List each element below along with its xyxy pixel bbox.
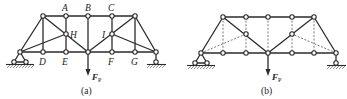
- joint-top-right: [133, 14, 137, 18]
- joint-center-bottom: [86, 50, 90, 54]
- label-f: F: [107, 57, 114, 67]
- load-label-b: F: [271, 72, 278, 82]
- load-subscript-a: P: [98, 77, 102, 83]
- joints-b: [199, 15, 338, 55]
- load-arrow-a: [86, 52, 91, 76]
- label-g: G: [131, 57, 138, 67]
- label-h: H: [69, 30, 78, 40]
- label-c: C: [108, 3, 115, 13]
- label-d: D: [38, 57, 46, 67]
- joint-f: [110, 50, 114, 54]
- label-e: E: [61, 57, 68, 67]
- left-end-diagonal-b: [201, 17, 223, 53]
- joint-left-support: [18, 50, 22, 54]
- load-arrow-b: [266, 53, 271, 76]
- label-b: B: [85, 3, 91, 13]
- right-end-diagonal-b: [314, 17, 336, 53]
- right-end-diagonal: [135, 16, 156, 52]
- load-label-a: F: [91, 72, 98, 82]
- label-a: A: [61, 3, 68, 13]
- joint-g: [133, 50, 137, 54]
- dashed-members-b: [201, 17, 336, 53]
- joint-d: [41, 50, 45, 54]
- truss-a: A B C H I D E F G F P (a): [6, 3, 166, 97]
- joint-e: [64, 50, 68, 54]
- caption-a: (a): [81, 86, 92, 97]
- joint-i: [110, 32, 114, 36]
- joint-top-left: [41, 14, 45, 18]
- left-end-diagonal: [20, 16, 43, 52]
- caption-b: (b): [261, 86, 272, 97]
- joint-right-support: [154, 50, 158, 54]
- truss-b: F P (b): [187, 15, 346, 97]
- load-subscript-b: P: [278, 77, 282, 83]
- truss-diagrams: A B C H I D E F G F P (a): [0, 0, 347, 99]
- joint-b: [86, 14, 90, 18]
- joint-a: [64, 14, 68, 18]
- joint-c: [110, 14, 114, 18]
- joint-h: [64, 32, 68, 36]
- diagonal-support-i: [112, 34, 156, 52]
